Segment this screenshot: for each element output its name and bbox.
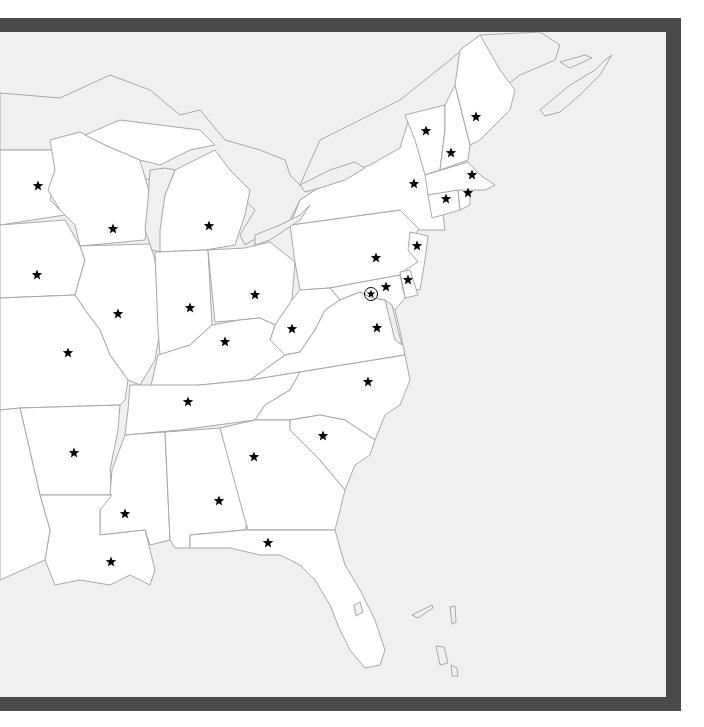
map-frame-bottom bbox=[0, 697, 681, 711]
map-canvas bbox=[0, 32, 666, 697]
bahamas-island-1 bbox=[412, 605, 433, 618]
state-iowa bbox=[0, 220, 85, 298]
bahamas-island-3 bbox=[436, 646, 448, 665]
bahamas-island-4 bbox=[451, 665, 458, 676]
pei-island bbox=[560, 55, 592, 68]
map-frame-right bbox=[666, 18, 681, 711]
bahamas-island-2 bbox=[450, 606, 456, 624]
state-florida bbox=[190, 530, 385, 668]
state-connecticut bbox=[428, 190, 460, 218]
map-frame-top bbox=[0, 18, 681, 32]
state-ohio bbox=[208, 242, 295, 325]
